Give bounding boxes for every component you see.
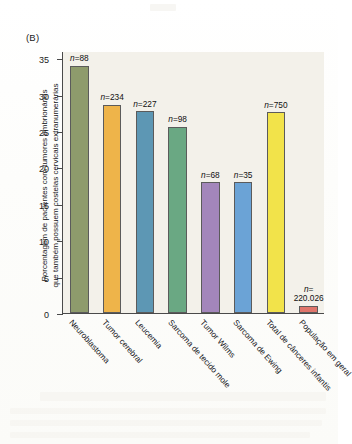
y-tick-5: 5 bbox=[57, 278, 63, 279]
bar-annotation-line: n=68 bbox=[201, 171, 220, 181]
bar-2 bbox=[103, 105, 121, 313]
y-tick-10: 10 bbox=[57, 241, 63, 242]
y-tick-label-0: 0 bbox=[44, 310, 49, 320]
bar-annotation-2: n=234 bbox=[100, 93, 123, 103]
bar-annotation-6: n=35 bbox=[234, 171, 253, 181]
bar-annotation-line: n=750 bbox=[264, 101, 287, 111]
y-tick-35: 35 bbox=[57, 59, 63, 60]
y-tick-20: 20 bbox=[57, 168, 63, 169]
bar-7 bbox=[267, 112, 285, 313]
plot-area: 05101520253035n=88n=234n=227n=98n=68n=35… bbox=[62, 52, 324, 314]
y-tick-0: 0 bbox=[57, 314, 63, 315]
bar-annotation-5: n=68 bbox=[201, 171, 220, 181]
panel-label: (B) bbox=[26, 32, 39, 43]
bar-annotation-line: n=98 bbox=[168, 115, 187, 125]
bar-annotation-8: n=220.026 bbox=[294, 285, 324, 304]
y-tick-label-30: 30 bbox=[39, 92, 49, 102]
y-tick-15: 15 bbox=[57, 205, 63, 206]
y-tick-label-35: 35 bbox=[39, 55, 49, 65]
bar-8 bbox=[299, 306, 317, 313]
bar-annotation-line: 220.026 bbox=[294, 294, 324, 304]
y-tick-label-20: 20 bbox=[39, 164, 49, 174]
y-axis-title-line-2: que também possuem costelas cervicais ex… bbox=[50, 52, 61, 320]
plot-inner: 05101520253035n=88n=234n=227n=98n=68n=35… bbox=[63, 52, 324, 313]
bar-annotation-line: n=35 bbox=[234, 171, 253, 181]
x-axis-label-4: Sarcoma de tecido mole bbox=[166, 318, 232, 390]
bar-annotation-7: n=750 bbox=[264, 101, 287, 111]
bar-6 bbox=[234, 182, 252, 313]
y-tick-label-25: 25 bbox=[39, 128, 49, 138]
y-tick-30: 30 bbox=[57, 96, 63, 97]
bar-annotation-line: n=227 bbox=[133, 100, 156, 110]
y-tick-25: 25 bbox=[57, 132, 63, 133]
x-axis-label-7: Total de cânceres infantis bbox=[264, 318, 333, 393]
bar-annotation-line: n=88 bbox=[70, 54, 89, 64]
bar-5 bbox=[201, 182, 219, 313]
y-tick-label-15: 15 bbox=[39, 201, 49, 211]
bar-annotation-1: n=88 bbox=[70, 54, 89, 64]
x-axis-label-3: Leucemia bbox=[133, 318, 163, 350]
bar-annotation-3: n=227 bbox=[133, 100, 156, 110]
y-tick-label-10: 10 bbox=[39, 237, 49, 247]
bar-1 bbox=[70, 66, 88, 313]
bar-3 bbox=[136, 111, 154, 313]
y-tick-label-5: 5 bbox=[44, 274, 49, 284]
bar-4 bbox=[168, 127, 186, 313]
bar-annotation-line: n=234 bbox=[100, 93, 123, 103]
bar-annotation-4: n=98 bbox=[168, 115, 187, 125]
